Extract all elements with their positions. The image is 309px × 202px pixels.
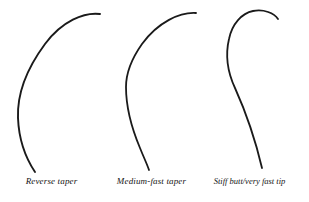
rod-curve-medium-fast-taper — [100, 0, 203, 180]
rod-curve-path — [227, 10, 278, 168]
taper-caption-medium-fast: Medium-fast taper — [100, 176, 203, 187]
rod-curve-reverse-taper — [0, 0, 103, 180]
taper-panel-medium-fast: Medium-fast taper — [100, 0, 203, 202]
rod-curve-stiff-butt-very-fast-tip — [198, 0, 301, 180]
taper-caption-stiff-butt: Stiff butt/very fast tip — [198, 176, 301, 187]
taper-panel-stiff-butt: Stiff butt/very fast tip — [198, 0, 301, 202]
rod-curve-path — [18, 14, 100, 172]
rod-curve-path — [126, 13, 196, 170]
taper-caption-reverse: Reverse taper — [0, 176, 103, 187]
rod-taper-figure: Reverse taper Medium-fast taper Stiff bu… — [0, 0, 309, 202]
taper-panel-reverse: Reverse taper — [0, 0, 103, 202]
